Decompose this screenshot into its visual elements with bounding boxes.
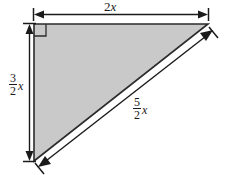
top-dimension-arrow-left-icon <box>34 11 44 19</box>
hypotenuse-fraction: 5 2 <box>133 96 141 121</box>
geometry-figure: 2x 3 2 x 5 2 x <box>0 0 229 175</box>
top-side-label: 2x <box>104 0 116 13</box>
left-side-fraction: 3 2 <box>9 72 17 97</box>
left-side-numerator: 3 <box>9 72 17 84</box>
triangle-diagram-canvas <box>0 0 229 175</box>
left-side-label: 3 2 x <box>9 72 23 97</box>
right-triangle-shape <box>34 24 208 161</box>
top-dimension-line <box>34 8 209 21</box>
hypotenuse-variable: x <box>142 104 147 116</box>
top-dimension-arrow-right-icon <box>198 11 208 19</box>
left-dimension-arrow-bottom-icon <box>26 151 34 161</box>
hypotenuse-denominator: 2 <box>133 108 141 121</box>
left-side-variable: x <box>18 80 23 92</box>
hypotenuse-label: 5 2 x <box>133 96 147 121</box>
top-side-variable: x <box>111 0 117 14</box>
left-side-denominator: 2 <box>9 84 17 97</box>
left-dimension-arrow-top-icon <box>26 24 34 34</box>
hypotenuse-numerator: 5 <box>133 96 141 108</box>
